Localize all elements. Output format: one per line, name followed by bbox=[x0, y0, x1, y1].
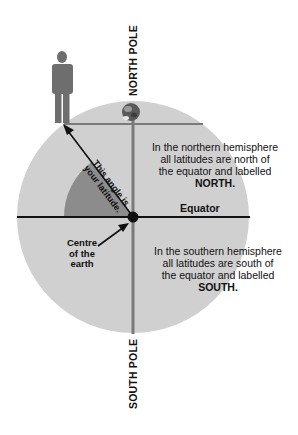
south-emphasis: SOUTH. bbox=[143, 281, 293, 293]
north-emphasis: NORTH. bbox=[140, 177, 290, 189]
equator-label: Equator bbox=[180, 202, 240, 214]
south-pole-label: SOUTH POLE bbox=[127, 339, 139, 409]
northern-hemisphere-text: In the northern hemisphere all latitudes… bbox=[140, 141, 290, 189]
latitude-diagram bbox=[0, 0, 298, 435]
centre-of-earth-label: Centre of the earth bbox=[60, 238, 104, 270]
polar-bear-icon bbox=[122, 103, 140, 121]
southern-hemisphere-text: In the southern hemisphere all latitudes… bbox=[143, 245, 293, 293]
north-pole-label: NORTH POLE bbox=[127, 25, 139, 96]
person-figure-icon bbox=[52, 51, 73, 123]
centre-dot bbox=[128, 212, 139, 223]
